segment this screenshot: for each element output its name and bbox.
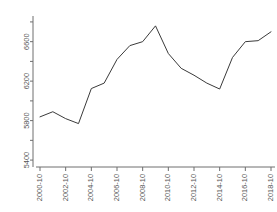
y-axis-tick-label: 5800 [22,112,31,128]
x-axis: 2000-102002-102004-102006-102008-102010-… [35,167,275,201]
x-axis-tick-label: 2004-10 [86,174,95,201]
x-axis-tick-label: 2010-10 [163,174,172,201]
y-axis-tick-label: 6600 [22,33,31,49]
x-axis-tick-label: 2014-10 [215,174,224,201]
x-axis-tick-label: 2006-10 [112,174,121,201]
x-axis-tick-label: 2018-10 [266,174,275,201]
y-axis-tick-label: 6200 [22,73,31,89]
data-series-line [40,26,271,124]
chart-canvas: 5400580062006600 2000-102002-102004-1020… [0,0,277,212]
data-series-group [40,26,271,124]
x-axis-tick-label: 2008-10 [138,174,147,201]
y-axis-tick-label: 5400 [22,152,31,168]
x-axis-tick-label: 2000-10 [35,174,44,201]
y-axis: 5400580062006600 [22,16,33,168]
line-chart: 5400580062006600 2000-102002-102004-1020… [0,0,277,212]
x-axis-tick-label: 2002-10 [61,174,70,201]
x-axis-tick-label: 2012-10 [189,174,198,201]
x-axis-tick-label: 2016-10 [240,174,249,201]
